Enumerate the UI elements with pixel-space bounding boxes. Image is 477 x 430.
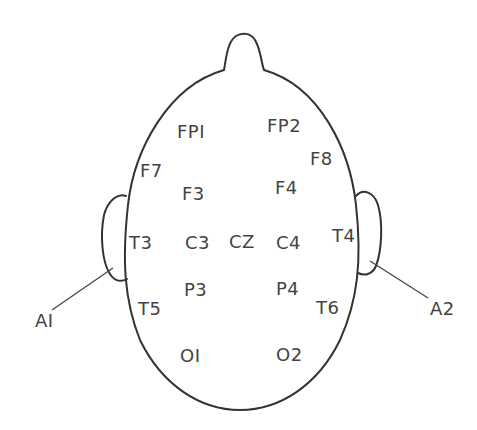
electrode-o2: O2	[276, 344, 303, 365]
left-ear	[102, 195, 127, 281]
electrode-f3: F3	[182, 183, 205, 204]
electrode-c4: C4	[276, 232, 301, 253]
electrode-a1: AI	[35, 310, 54, 331]
a2-leader-line	[370, 261, 428, 298]
electrode-t5: T5	[137, 298, 161, 319]
electrode-o1: OI	[180, 345, 200, 366]
electrode-c3: C3	[185, 232, 210, 253]
head-outline	[125, 34, 359, 410]
electrode-a2: A2	[430, 298, 455, 319]
electrode-labels: FPI FP2 F7 F8 F3 F4 T3 C3 CZ C4 T4 P3 P4…	[128, 115, 355, 366]
electrode-p3: P3	[184, 279, 207, 300]
electrode-f8: F8	[310, 148, 333, 169]
electrode-f4: F4	[275, 177, 298, 198]
electrode-fp2: FP2	[267, 115, 301, 136]
electrode-cz: CZ	[229, 231, 255, 252]
a1-leader-line	[52, 268, 113, 310]
head-outline-drawing: FPI FP2 F7 F8 F3 F4 T3 C3 CZ C4 T4 P3 P4…	[0, 0, 477, 430]
eeg-electrode-diagram: FPI FP2 F7 F8 F3 F4 T3 C3 CZ C4 T4 P3 P4…	[0, 0, 477, 430]
electrode-f7: F7	[140, 160, 163, 181]
electrode-t3: T3	[128, 232, 152, 253]
electrode-t4: T4	[331, 225, 355, 246]
electrode-p4: P4	[276, 278, 299, 299]
electrode-t6: T6	[315, 297, 339, 318]
right-ear	[356, 192, 381, 275]
ear-reference-labels: AI A2	[35, 298, 455, 331]
electrode-fp1: FPI	[177, 121, 205, 142]
